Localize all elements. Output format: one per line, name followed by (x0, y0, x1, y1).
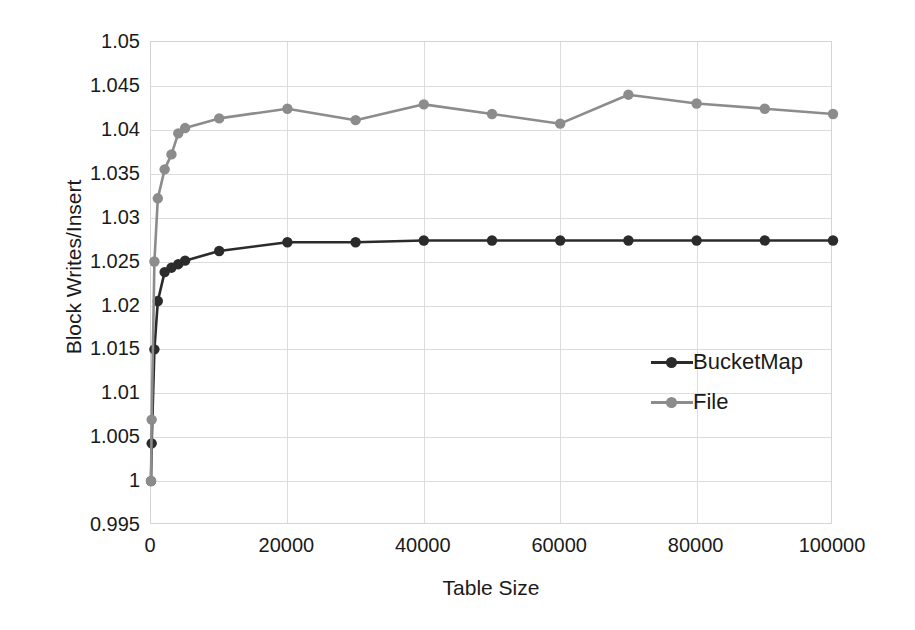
data-point-marker (487, 109, 497, 119)
data-point-marker (419, 99, 429, 109)
series-lines (151, 42, 833, 525)
data-point-marker (691, 235, 701, 245)
data-point-marker (760, 104, 770, 114)
data-point-marker (214, 246, 224, 256)
data-point-marker (623, 235, 633, 245)
data-point-marker (214, 113, 224, 123)
plot-area (150, 41, 832, 524)
x-axis-tick-label: 40000 (353, 534, 493, 557)
x-axis-tick-label: 20000 (216, 534, 356, 557)
x-axis-tick-label: 0 (80, 534, 220, 557)
data-point-marker (146, 414, 156, 424)
y-axis-tick-label: 0.995 (50, 514, 140, 534)
x-axis-tick-labels: 020000400006000080000100000 (0, 534, 915, 564)
legend-item[interactable]: File (651, 389, 803, 415)
data-point-marker (282, 237, 292, 247)
data-point-marker (149, 256, 159, 266)
x-axis-tick-label: 80000 (626, 534, 766, 557)
data-point-marker (691, 98, 701, 108)
data-point-marker (487, 235, 497, 245)
chart-legend: BucketMapFile (651, 349, 803, 415)
legend-marker-icon (651, 354, 693, 370)
data-point-marker (149, 344, 159, 354)
data-point-marker (555, 235, 565, 245)
x-axis-title: Table Size (150, 576, 832, 600)
x-axis-tick-label: 60000 (489, 534, 629, 557)
legend-item[interactable]: BucketMap (651, 349, 803, 375)
chart-figure: 1.051.0451.041.0351.031.0251.021.0151.01… (0, 0, 915, 630)
y-axis-tick-label: 1.045 (50, 75, 140, 95)
data-point-marker (555, 118, 565, 128)
y-axis-title: Block Writes/Insert (62, 117, 86, 417)
data-point-marker (828, 235, 838, 245)
data-point-marker (760, 235, 770, 245)
series-line (151, 95, 833, 481)
data-point-marker (282, 104, 292, 114)
y-axis-tick-label: 1 (50, 470, 140, 490)
series-file (146, 89, 838, 486)
legend-item-label: File (693, 389, 728, 415)
data-point-marker (180, 255, 190, 265)
data-point-marker (350, 237, 360, 247)
data-point-marker (166, 149, 176, 159)
data-point-marker (159, 164, 169, 174)
data-point-marker (623, 89, 633, 99)
data-point-marker (180, 123, 190, 133)
x-axis-tick-label: 100000 (762, 534, 902, 557)
y-axis-tick-label: 1.05 (50, 31, 140, 51)
data-point-marker (350, 115, 360, 125)
legend-item-label: BucketMap (693, 349, 803, 375)
y-axis-tick-label: 1.005 (50, 426, 140, 446)
data-point-marker (146, 476, 156, 486)
data-point-marker (153, 193, 163, 203)
legend-marker-icon (651, 394, 693, 410)
data-point-marker (419, 235, 429, 245)
data-point-marker (828, 109, 838, 119)
